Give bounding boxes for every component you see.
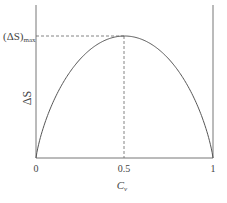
x-tick-0: 0	[34, 163, 39, 174]
x-axis-label: Cv	[117, 179, 128, 193]
entropy-curve	[36, 36, 213, 158]
y-axis-label: ΔS	[20, 91, 34, 105]
ymax-label: (ΔS)max	[3, 30, 36, 44]
x-tick-1: 1	[211, 163, 216, 174]
entropy-chart: (ΔS)max ΔS 0 0.5 1 Cv	[0, 0, 227, 203]
x-tick-0.5: 0.5	[118, 163, 131, 174]
